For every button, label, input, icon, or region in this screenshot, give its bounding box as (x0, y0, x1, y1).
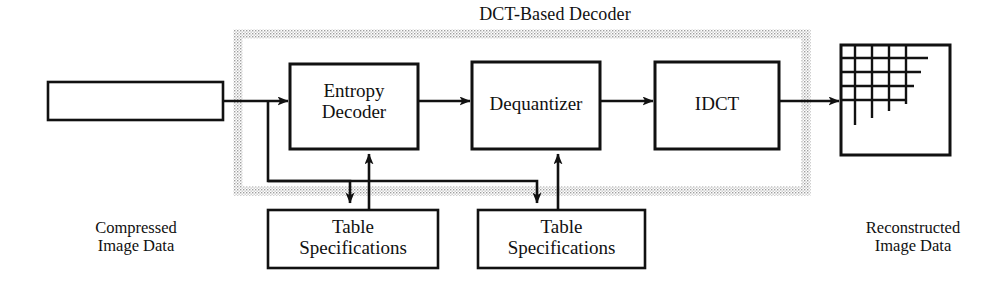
table-specifications-entropy-label: Table Specifications (268, 216, 438, 259)
diagram-title: DCT-Based Decoder (405, 4, 705, 24)
dequantizer-label: Dequantizer (470, 93, 602, 114)
reconstructed-image-data-caption: Reconstructed Image Data (838, 219, 988, 256)
idct-label: IDCT (655, 93, 779, 114)
table-specifications-dequantizer-label: Table Specifications (478, 216, 645, 259)
compressed-image-data-box (48, 82, 223, 120)
entropy-decoder-label: Entropy Decoder (290, 80, 418, 123)
compressed-image-data-caption: Compressed Image Data (48, 219, 224, 256)
dct-based-decoder-diagram: DCT-Based Decoder Entropy Decoder Dequan… (0, 0, 1003, 294)
reconstructed-image-box (841, 45, 950, 155)
